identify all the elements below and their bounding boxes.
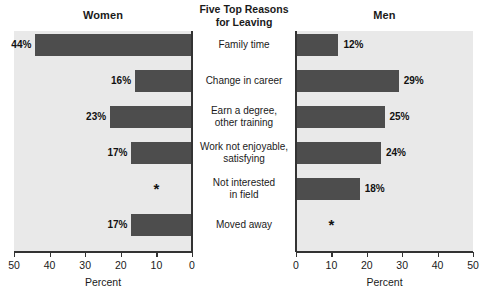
category-label-2-line-0: Earn a degree, [193,105,295,117]
category-label-5-line-0: Moved away [193,219,295,231]
category-label-3: Work not enjoyable,satisfying [193,141,295,165]
x-tick-label-men-40: 40 [425,259,451,271]
bar-men-0 [296,34,338,56]
x-tick-label-men-50: 50 [460,259,486,271]
bar-women-0 [35,34,192,56]
category-label-4: Not interestedin field [193,177,295,201]
value-label-women-2: 23% [0,106,106,128]
category-label-0: Family time [193,39,295,51]
suppressed-marker-men-5: * [324,214,338,236]
value-label-women-5: 17% [0,214,127,236]
category-label-0-line-0: Family time [193,39,295,51]
category-label-4-line-0: Not interested [193,177,295,189]
x-tick-women-20 [121,252,122,257]
chart-title: Five Top Reasons for Leaving [192,3,296,28]
x-tick-women-10 [156,252,157,257]
category-label-5: Moved away [193,219,295,231]
value-label-men-0: 12% [343,34,363,56]
panel-title-men: Men [296,9,473,21]
x-axis-label-women: Percent [14,276,192,288]
axis-baseline-men [296,251,473,253]
bar-women-1 [135,70,192,92]
x-tick-men-30 [402,252,403,257]
bar-men-4 [296,178,360,200]
category-label-4-line-1: in field [193,189,295,201]
x-tick-label-women-50: 50 [1,259,27,271]
chart-title-line-1: Five Top Reasons [192,3,296,16]
x-tick-men-0 [296,252,297,257]
chart-figure: Women Five Top Reasons for Leaving Men 4… [0,0,487,295]
category-label-3-line-1: satisfying [193,153,295,165]
category-label-1-line-0: Change in career [193,75,295,87]
value-label-men-3: 24% [386,142,406,164]
value-label-men-4: 18% [365,178,385,200]
value-label-men-1: 29% [404,70,424,92]
plot-area-men [296,31,473,251]
category-label-2: Earn a degree,other training [193,105,295,129]
bar-women-2 [110,106,192,128]
x-tick-women-40 [50,252,51,257]
bar-women-5 [131,214,192,236]
x-tick-men-50 [473,252,474,257]
bar-men-1 [296,70,399,92]
suppressed-marker-women-4: * [149,178,163,200]
x-tick-label-women-40: 40 [37,259,63,271]
x-tick-label-women-30: 30 [72,259,98,271]
x-tick-women-0 [192,252,193,257]
value-label-women-1: 16% [0,70,131,92]
value-label-women-3: 17% [0,142,127,164]
category-label-1: Change in career [193,75,295,87]
x-tick-label-men-0: 0 [283,259,309,271]
axis-spine-women [191,31,193,252]
x-tick-label-women-20: 20 [108,259,134,271]
x-tick-women-50 [14,252,15,257]
x-tick-label-men-30: 30 [389,259,415,271]
x-tick-label-men-20: 20 [354,259,380,271]
bar-men-3 [296,142,381,164]
x-tick-women-30 [85,252,86,257]
chart-title-line-2: for Leaving [192,16,296,29]
x-tick-men-20 [367,252,368,257]
panel-title-women: Women [14,9,192,21]
x-tick-label-men-10: 10 [318,259,344,271]
x-tick-men-10 [331,252,332,257]
bar-men-2 [296,106,385,128]
axis-baseline-women [14,251,192,253]
x-tick-label-women-0: 0 [179,259,205,271]
x-tick-label-women-10: 10 [143,259,169,271]
value-label-women-0: 44% [0,34,31,56]
x-tick-men-40 [438,252,439,257]
x-axis-label-men: Percent [296,276,473,288]
value-label-men-2: 25% [390,106,410,128]
category-label-3-line-0: Work not enjoyable, [193,141,295,153]
category-label-2-line-1: other training [193,117,295,129]
axis-spine-men [295,31,297,252]
bar-women-3 [131,142,192,164]
